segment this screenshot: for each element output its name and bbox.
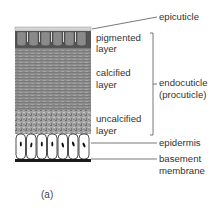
label-endocuticle-line2: (procuticle) [159, 89, 206, 100]
label-basement-line2: membrane [159, 165, 205, 176]
label-endocuticle-line1: endocuticle [159, 77, 208, 88]
label-pigmented-line1: pigmented [96, 32, 141, 43]
figure-caption: (a) [41, 189, 53, 200]
calcified-layer [15, 48, 91, 110]
label-calcified-line2: layer [96, 79, 118, 90]
label-calcified-line1: calcified [96, 67, 131, 78]
label-pigmented-line2: layer [96, 43, 118, 54]
label-uncalcified-line1: uncalcified [96, 113, 141, 124]
label-epidermis: epidermis [159, 137, 201, 148]
cuticle-diagram: epicuticle pigmented layer calcified lay… [0, 0, 221, 208]
basement-membrane-layer [15, 159, 91, 162]
label-epicuticle: epicuticle [159, 11, 199, 22]
epicuticle-layer [15, 27, 91, 31]
label-uncalcified-line2: layer [96, 125, 118, 136]
pigmented-layer [15, 31, 91, 48]
epidermis-cells [15, 134, 91, 160]
uncalcified-layer [15, 110, 91, 134]
label-basement-line1: basement [159, 153, 201, 164]
